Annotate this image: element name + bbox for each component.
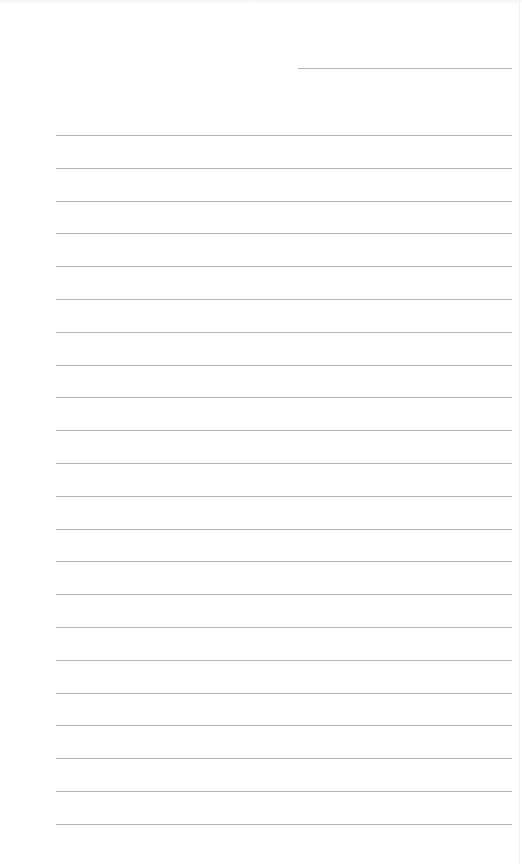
ruled-line [56,660,512,661]
ruled-line [56,266,512,267]
date-line [298,68,512,69]
ruled-line [56,233,512,234]
ruled-line [56,627,512,628]
ruled-line [56,463,512,464]
ruled-line [56,725,512,726]
ruled-line [56,561,512,562]
ruled-line [56,299,512,300]
ruled-line [56,824,512,825]
ruled-line [56,332,512,333]
ruled-line [56,529,512,530]
ruled-line [56,397,512,398]
ruled-line [56,496,512,497]
ruled-line [56,135,512,136]
ruled-line [56,791,512,792]
ruled-line [56,168,512,169]
ruled-line [56,365,512,366]
notepad-page [0,0,522,864]
page-top-edge [0,0,522,4]
ruled-line [56,430,512,431]
ruled-line [56,201,512,202]
ruled-line [56,693,512,694]
ruled-line [56,758,512,759]
ruled-line [56,594,512,595]
page-right-edge [519,0,520,864]
